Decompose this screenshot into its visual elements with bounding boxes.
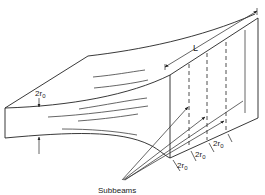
height-label: 2r0 [35,89,46,99]
subbeam-arrow [124,121,224,180]
beam-body [5,14,258,158]
width-label-1: 2r0 [177,161,188,171]
flow-line [48,106,148,117]
width-label-3: 2r0 [213,139,224,149]
height-dimension: 2r0 [35,89,46,154]
length-dimension: L [165,8,257,70]
length-arrow [165,11,257,67]
flow-line [93,70,145,77]
width-label-2: 2r0 [195,150,206,160]
bottom-front-edge [5,118,258,158]
beam-diagram: L 2r0 Subbeams 2r0 [0,0,265,195]
flow-line [78,114,138,121]
length-label: L [193,43,198,53]
top-back-edge [88,14,255,56]
subbeams-label: Subbeams [98,186,136,195]
width-extension [228,134,232,142]
flow-lines [48,70,148,135]
subbeam-arrow [123,117,205,180]
diagram-canvas: L 2r0 Subbeams 2r0 [0,0,265,195]
top-back-left-edge [5,56,88,108]
